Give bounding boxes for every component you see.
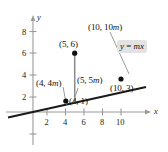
x-tick-label-10: 10 (116, 118, 124, 127)
x-tick-label-4: 4 (63, 118, 67, 127)
y-tick-label-4: 4 (22, 71, 26, 80)
y-axis-arrow (31, 15, 36, 21)
label-10-10m-close: ) (119, 22, 122, 32)
y-tick-label-2: 2 (22, 93, 26, 102)
equation-mx: mx (134, 41, 145, 51)
line-point-label-5-5m: (5, 5m) (77, 76, 102, 85)
y-tick-label-8: 8 (22, 28, 26, 37)
label-4-4m-close: ) (58, 78, 61, 88)
point-label-4-1: (4, 1) (69, 97, 88, 106)
label-4-4m-open: (4, 4 (36, 78, 52, 88)
equation-equals: = (124, 41, 134, 51)
dot-point-5-6 (72, 51, 77, 56)
dot-point-10-3 (118, 76, 123, 81)
x-tick-label-2: 2 (45, 118, 49, 127)
x-tick-label-6: 6 (82, 118, 86, 127)
label-10-10m-open: (10, 10 (88, 22, 113, 32)
dot-point-4-1 (63, 98, 68, 103)
point-label-10-3: (10, 3) (110, 84, 133, 93)
leader-10-10m (110, 32, 129, 74)
y-axis-label: y (37, 13, 41, 22)
label-5-5m-close: ) (99, 75, 102, 85)
line-point-label-10-10m: (10, 10m) (88, 23, 122, 32)
x-axis-label: x (154, 107, 158, 116)
x-tick-label-8: 8 (100, 118, 104, 127)
label-5-5m-open: (5, 5 (77, 75, 93, 85)
y-tick-label-6: 6 (22, 49, 26, 58)
equation-callout-y-equals-mx: y = mx (117, 40, 147, 53)
x-axis-arrow (145, 110, 151, 115)
point-label-5-6: (5, 6) (59, 40, 78, 49)
line-point-label-4-4m: (4, 4m) (36, 79, 61, 88)
